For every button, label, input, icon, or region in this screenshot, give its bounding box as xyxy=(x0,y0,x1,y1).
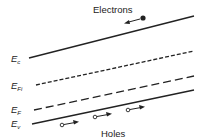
ec-line xyxy=(29,16,194,58)
ef-line xyxy=(34,76,194,110)
hole-particle xyxy=(60,120,79,127)
hole-particle xyxy=(93,112,112,119)
band-diagram: Electrons Holes Ec EFi EF Ev xyxy=(0,0,207,140)
ef-label: EF xyxy=(11,104,21,116)
electrons-label: Electrons xyxy=(93,4,133,15)
hole-particle xyxy=(126,105,145,112)
ec-label: Ec xyxy=(11,53,20,65)
electron-particle xyxy=(124,15,146,24)
efi-label: EFi xyxy=(11,80,23,92)
holes-label: Holes xyxy=(101,128,126,139)
efi-line xyxy=(36,51,194,85)
ev-line xyxy=(32,90,194,124)
ev-label: Ev xyxy=(11,118,21,130)
